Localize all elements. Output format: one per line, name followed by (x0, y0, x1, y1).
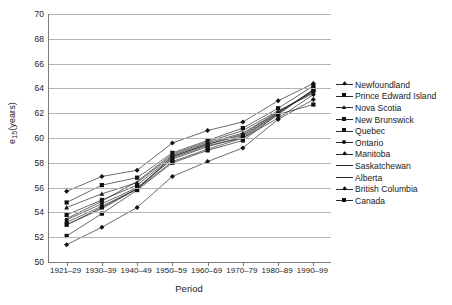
legend-label: Nova Scotia (353, 103, 401, 113)
y-axis-tick-label: 70 (26, 10, 44, 19)
y-axis-title-suffix: (years) (7, 102, 17, 131)
data-point (276, 98, 281, 103)
data-point (311, 97, 316, 102)
legend-item-canada[interactable]: Canada (336, 195, 452, 207)
data-point (100, 205, 104, 209)
gridline (49, 138, 331, 139)
legend-symbol-icon (342, 105, 346, 109)
legend-label: Quebec (353, 126, 385, 136)
data-point (64, 189, 69, 194)
y-axis-title: e15(years) (7, 87, 17, 159)
data-point (65, 200, 69, 204)
y-axis-tick-label: 54 (26, 208, 44, 217)
gridline (49, 88, 331, 89)
data-point (65, 213, 69, 217)
legend-marker-icon (336, 79, 353, 90)
legend-symbol-icon (342, 128, 346, 132)
legend-item-british-columbia[interactable]: British Columbia (336, 183, 452, 195)
gridline (49, 14, 331, 15)
series-line (67, 100, 314, 245)
legend-symbol-icon (342, 93, 346, 97)
y-axis-tick-label: 60 (26, 134, 44, 143)
y-axis-title-sub: 15 (11, 131, 18, 139)
legend-marker-icon (336, 91, 353, 102)
gridline (49, 163, 331, 164)
legend-marker-icon (336, 184, 353, 195)
data-point (205, 128, 210, 133)
legend-symbol-icon (342, 198, 346, 202)
legend-line-icon (336, 165, 353, 166)
data-point (311, 102, 315, 106)
legend-marker-icon (336, 126, 353, 137)
y-axis-title-base: e (7, 139, 17, 144)
data-point (64, 242, 69, 247)
plot-area (48, 14, 331, 263)
data-point (240, 119, 245, 124)
legend-marker-icon (336, 172, 353, 183)
data-point (64, 205, 69, 209)
legend-item-nova-scotia[interactable]: Nova Scotia (336, 102, 452, 114)
legend-item-manitoba[interactable]: Manitoba (336, 149, 452, 161)
legend-label: Prince Edward Island (353, 91, 436, 101)
gridline (49, 212, 331, 213)
y-axis-tick-label: 68 (26, 35, 44, 44)
legend-item-newfoundland[interactable]: Newfoundland (336, 79, 452, 91)
legend-marker-icon (336, 160, 353, 171)
data-point (135, 176, 139, 180)
legend-marker-icon (336, 137, 353, 148)
legend-label: Saskatchewan (353, 161, 411, 171)
gridline (49, 237, 331, 238)
legend-item-prince-edward-island[interactable]: Prince Edward Island (336, 91, 452, 103)
y-axis-tick-label: 64 (26, 84, 44, 93)
y-axis-tick-label: 66 (26, 60, 44, 69)
data-point (206, 147, 210, 151)
y-axis-tick-label: 56 (26, 184, 44, 193)
y-axis-tick-label: 52 (26, 233, 44, 242)
x-axis-title: Period (48, 283, 330, 294)
data-point (100, 183, 104, 187)
gridline (49, 113, 331, 114)
legend-label: British Columbia (353, 184, 418, 194)
legend-symbol-icon (342, 82, 347, 87)
legend-marker-icon (336, 149, 353, 160)
x-axis-tick-labels: 1921–291930–391940–491950–591960–691970–… (48, 266, 330, 280)
legend-label: Alberta (353, 173, 382, 183)
y-axis-tick-labels: 5052545658606264666870 (26, 0, 44, 305)
legend-item-new-brunswick[interactable]: New Brunswick (336, 114, 452, 126)
legend-label: New Brunswick (353, 115, 414, 125)
legend: NewfoundlandPrince Edward IslandNova Sco… (336, 79, 452, 207)
gridline (49, 64, 331, 65)
legend-item-quebec[interactable]: Quebec (336, 125, 452, 137)
legend-line-icon (336, 177, 353, 178)
legend-item-saskatchewan[interactable]: Saskatchewan (336, 160, 452, 172)
legend-item-alberta[interactable]: Alberta (336, 172, 452, 184)
x-axis-tick-label: 1990–99 (282, 266, 342, 276)
legend-marker-icon (336, 114, 353, 125)
legend-symbol-icon (342, 117, 346, 121)
legend-symbol-icon (342, 186, 347, 191)
legend-marker-icon (336, 195, 353, 206)
data-point (99, 225, 104, 230)
data-point (99, 174, 104, 179)
legend-item-ontario[interactable]: Ontario (336, 137, 452, 149)
gridline (49, 39, 331, 40)
legend-label: Manitoba (353, 149, 390, 159)
chart-figure: e15(years) 5052545658606264666870 1921–2… (0, 0, 452, 305)
legend-label: Canada (353, 196, 385, 206)
legend-symbol-icon (342, 140, 346, 144)
data-point (311, 84, 315, 88)
data-point (65, 223, 69, 227)
y-axis-tick-label: 58 (26, 159, 44, 168)
legend-marker-icon (336, 102, 353, 113)
y-axis-tick-label: 62 (26, 109, 44, 118)
legend-symbol-icon (342, 151, 347, 156)
legend-label: Ontario (353, 138, 383, 148)
gridline (49, 188, 331, 189)
legend-label: Newfoundland (353, 80, 410, 90)
series-british-columbia (64, 97, 316, 247)
